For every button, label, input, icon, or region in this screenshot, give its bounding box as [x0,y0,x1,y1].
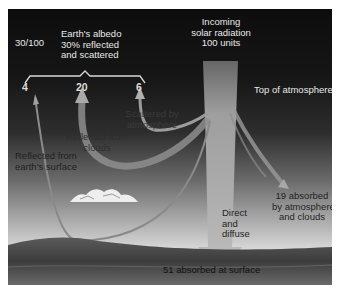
diagram-artwork [8,9,332,285]
scattered-value: 6 [136,82,142,93]
absorbed-atmosphere-label: 19 absorbed by atmosphere and clouds [272,191,332,223]
scattered-by-atmosphere-label: Scattered by atmosphere [118,109,186,130]
top-of-atmosphere-label: Top of atmosphere [254,85,332,96]
incoming-radiation-label: Incoming solar radiation 100 units [190,17,252,49]
energy-budget-diagram: 30/100 Earth's albedo 30% reflected and … [8,9,332,285]
direct-diffuse-label: Direct and diffuse [222,208,250,240]
reflected-surface-value: 4 [22,82,28,93]
cloud-icon [70,189,138,202]
absorbed-surface-label: 51 absorbed at surface [163,265,260,276]
albedo-title-label: Earth's albedo 30% reflected and scatter… [61,29,121,61]
reflected-clouds-value: 20 [76,82,88,93]
albedo-ratio-label: 30/100 [15,38,44,49]
reflected-from-surface-label: Reflected from earth's surface [15,151,77,172]
incoming-radiation-arrow [198,61,242,271]
absorbed-atmosphere-arrows [230,109,289,189]
earth-surface [8,238,332,285]
